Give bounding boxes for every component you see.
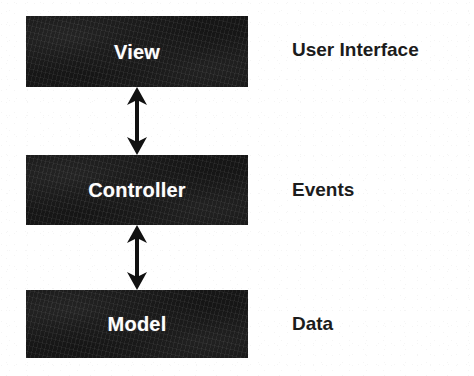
node-box-view: View: [26, 16, 248, 87]
double-headed-arrow-icon: [118, 87, 156, 155]
annotation-label-user-interface: User Interface: [292, 40, 419, 59]
connector-controller-model: [118, 225, 156, 290]
mvc-diagram-canvas: View Controller Model User Interface Eve…: [0, 0, 474, 376]
annotation-label-data: Data: [292, 314, 333, 333]
node-label-controller: Controller: [88, 180, 186, 200]
node-box-controller: Controller: [26, 155, 248, 225]
node-label-model: Model: [108, 314, 167, 334]
node-label-view: View: [114, 42, 160, 62]
connector-view-controller: [118, 87, 156, 155]
node-box-model: Model: [26, 290, 248, 358]
double-headed-arrow-icon: [118, 225, 156, 290]
annotation-label-events: Events: [292, 180, 354, 199]
